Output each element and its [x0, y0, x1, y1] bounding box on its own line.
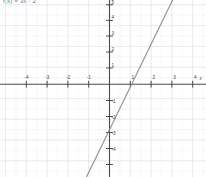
y-tick-label: 2 [112, 47, 115, 52]
y-tick-label: -1 [112, 99, 117, 104]
y-tick-labels: 5 4 3 2 1 -1 -2 -3 -4 [112, 0, 117, 152]
x-tick-label: 2 [152, 75, 155, 80]
y-tick-label: 1 [112, 63, 115, 68]
y-tick-label: 3 [112, 31, 115, 36]
minor-gridlines [0, 0, 206, 177]
x-tick-label: -1 [87, 75, 92, 80]
y-tick-label: 5 [112, 0, 115, 5]
x-tick-label: -4 [24, 75, 29, 80]
function-graph-figure: f(x) = 3x - 2 [0, 0, 206, 177]
x-tick-label: -3 [45, 75, 50, 80]
y-tick-label: 4 [112, 15, 115, 20]
x-tick-label: -2 [66, 75, 71, 80]
y-tick-label: -4 [112, 147, 117, 152]
plot-canvas: -4 -3 -2 -1 1 2 3 4 5 4 3 2 1 -1 -2 -3 -… [0, 0, 206, 177]
x-axis-label: x [199, 76, 203, 81]
x-tick-label: 3 [173, 75, 176, 80]
y-tick-label: -3 [112, 131, 117, 136]
x-tick-label: 4 [194, 75, 197, 80]
